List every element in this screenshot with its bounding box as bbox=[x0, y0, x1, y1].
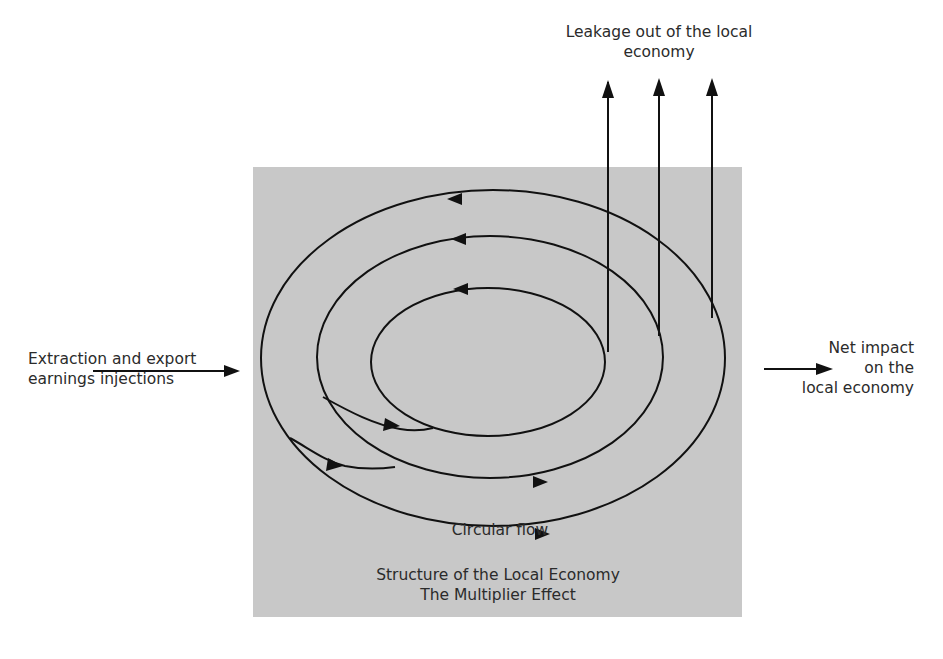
middle-top-arrowhead bbox=[451, 233, 466, 245]
leakage-label-line2: economy bbox=[544, 42, 774, 62]
net-impact-label: Net impact on the local economy bbox=[800, 338, 914, 398]
inner-top-arrowhead bbox=[453, 283, 468, 295]
leakage-label-line1: Leakage out of the local bbox=[544, 22, 774, 42]
leakage-arrowhead-2 bbox=[653, 78, 665, 96]
leakage-arrowhead-1 bbox=[602, 80, 614, 98]
injection-label-line1: Extraction and export bbox=[28, 349, 196, 369]
diagram-caption: Structure of the Local Economy The Multi… bbox=[343, 565, 653, 605]
connector-outer-to-middle bbox=[290, 438, 395, 469]
caption-line2: The Multiplier Effect bbox=[343, 585, 653, 605]
middle-ring bbox=[317, 236, 663, 478]
outer-top-arrowhead bbox=[447, 193, 462, 205]
injection-label-line2: earnings injections bbox=[28, 369, 196, 389]
multiplier-flow-diagram bbox=[0, 0, 943, 659]
connector-middle-to-inner bbox=[323, 397, 433, 430]
middle-bottom-arrowhead bbox=[533, 476, 548, 488]
net-impact-label-line1: Net impact bbox=[800, 338, 914, 358]
leakage-label: Leakage out of the local economy bbox=[544, 22, 774, 62]
net-impact-label-line3: local economy bbox=[800, 378, 914, 398]
injection-label: Extraction and export earnings injection… bbox=[28, 349, 196, 389]
injection-arrowhead bbox=[224, 365, 240, 377]
leakage-arrowhead-3 bbox=[706, 78, 718, 96]
net-impact-label-line2: on the bbox=[800, 358, 914, 378]
inner-ring bbox=[371, 288, 605, 436]
caption-line1: Structure of the Local Economy bbox=[343, 565, 653, 585]
outer-ring bbox=[261, 190, 725, 526]
circular-flow-label: Circular flow bbox=[420, 520, 580, 540]
